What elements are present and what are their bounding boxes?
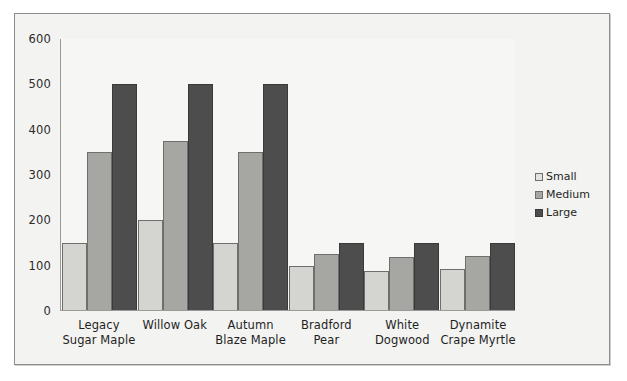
bar-large[interactable] (490, 243, 515, 311)
bar-small[interactable] (213, 243, 238, 311)
y-axis: 0100200300400500600 (15, 39, 55, 311)
bar-small[interactable] (138, 220, 163, 311)
bar-small[interactable] (364, 271, 389, 311)
legend-item-medium[interactable]: Medium (535, 187, 605, 202)
bar-medium[interactable] (465, 256, 490, 311)
y-tick-label: 600 (28, 32, 51, 46)
chart-legend: SmallMediumLarge (535, 169, 605, 223)
x-axis-label: Legacy Sugar Maple (61, 313, 137, 348)
bar-group (62, 39, 137, 311)
chart-frame: 0100200300400500600 Legacy Sugar MapleWi… (14, 13, 610, 365)
bar-large[interactable] (414, 243, 439, 311)
legend-swatch-icon (535, 209, 543, 217)
bar-groups (62, 39, 515, 311)
y-tick-label: 400 (28, 123, 51, 137)
x-axis-label: Willow Oak (137, 313, 213, 333)
x-axis-label: Autumn Blaze Maple (213, 313, 289, 348)
legend-item-small[interactable]: Small (535, 169, 605, 184)
bar-group (213, 39, 288, 311)
bar-medium[interactable] (163, 141, 188, 311)
bar-group (138, 39, 213, 311)
bar-large[interactable] (112, 84, 137, 311)
legend-swatch-icon (535, 173, 543, 181)
x-axis-label: Bradford Pear (288, 313, 364, 348)
bar-medium[interactable] (314, 254, 339, 311)
y-tick-label: 100 (28, 259, 51, 273)
bar-group (440, 39, 515, 311)
bar-medium[interactable] (238, 152, 263, 311)
legend-swatch-icon (535, 191, 543, 199)
legend-item-large[interactable]: Large (535, 205, 605, 220)
y-tick-label: 0 (43, 304, 51, 318)
legend-item-label: Small (546, 170, 577, 183)
y-tick-label: 300 (28, 168, 51, 182)
bar-group (364, 39, 439, 311)
plot-area (60, 39, 515, 311)
x-axis-label: White Dogwood (364, 313, 440, 348)
bar-group (289, 39, 364, 311)
bar-small[interactable] (289, 266, 314, 311)
bar-small[interactable] (440, 269, 465, 311)
y-tick-label: 200 (28, 213, 51, 227)
legend-item-label: Large (546, 206, 577, 219)
x-axis-labels: Legacy Sugar MapleWillow OakAutumn Blaze… (61, 313, 516, 361)
y-tick-label: 500 (28, 77, 51, 91)
bar-small[interactable] (62, 243, 87, 311)
legend-item-label: Medium (546, 188, 590, 201)
bar-large[interactable] (263, 84, 288, 311)
x-axis-baseline (61, 310, 515, 311)
bar-large[interactable] (188, 84, 213, 311)
bar-large[interactable] (339, 243, 364, 311)
bar-medium[interactable] (389, 257, 414, 311)
bar-medium[interactable] (87, 152, 112, 311)
x-axis-label: Dynamite Crape Myrtle (440, 313, 516, 348)
